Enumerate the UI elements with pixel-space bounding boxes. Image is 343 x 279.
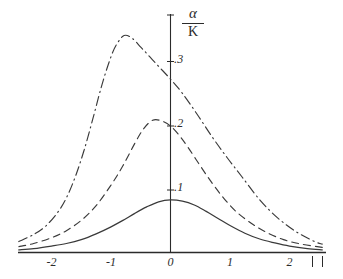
y-axis-title-denominator: K bbox=[178, 25, 208, 40]
figure-root: α K -2-1012 .1.2.3 bbox=[0, 0, 343, 279]
y-axis-title-numerator: α bbox=[178, 6, 208, 23]
x-tick-label: 1 bbox=[227, 256, 233, 268]
x-tick-label: 0 bbox=[168, 256, 174, 268]
axis-end-mark bbox=[322, 256, 323, 267]
plot-canvas bbox=[0, 0, 343, 279]
x-tick-label: 2 bbox=[287, 256, 293, 268]
y-tick-label: .2 bbox=[174, 117, 184, 129]
x-tick-label: -2 bbox=[47, 256, 57, 268]
x-tick-label: -1 bbox=[106, 256, 116, 268]
axis-end-mark bbox=[312, 256, 313, 267]
y-axis-title: α K bbox=[178, 6, 208, 39]
y-tick-label: .1 bbox=[174, 181, 184, 193]
y-tick-label: .3 bbox=[174, 53, 184, 65]
